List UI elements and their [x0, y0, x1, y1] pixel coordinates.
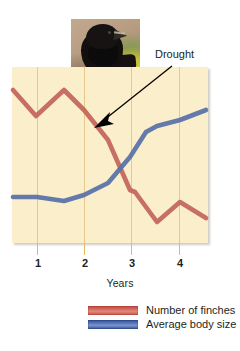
gridline-year-2	[84, 67, 85, 243]
gridline-year-1	[37, 67, 38, 243]
tick-mark-1	[37, 243, 38, 255]
plot-area	[12, 67, 208, 243]
finch-evolution-figure: 1 2 3 4 Years Drought Number of finches …	[0, 0, 240, 351]
legend-item-number-of-finches: Number of finches	[88, 303, 236, 317]
legend-swatch-average-body-size	[88, 320, 138, 329]
tick-mark-2	[84, 243, 85, 255]
chart-legend: Number of finches Average body size	[88, 303, 236, 331]
gridline-year-3	[131, 67, 132, 243]
gridline-year-4	[179, 67, 180, 243]
tick-label-4: 4	[170, 257, 190, 269]
legend-label-average-body-size: Average body size	[146, 318, 236, 331]
tick-label-3: 3	[122, 257, 142, 269]
photo-bird-eye	[108, 31, 111, 34]
legend-label-number-of-finches: Number of finches	[146, 304, 235, 317]
legend-item-average-body-size: Average body size	[88, 317, 236, 331]
x-axis-title: Years	[0, 277, 240, 289]
drought-annotation-label: Drought	[155, 48, 194, 60]
tick-label-2: 2	[75, 257, 95, 269]
tick-mark-3	[131, 243, 132, 255]
legend-swatch-number-of-finches	[88, 306, 138, 315]
tick-mark-4	[179, 243, 180, 255]
tick-label-1: 1	[28, 257, 48, 269]
